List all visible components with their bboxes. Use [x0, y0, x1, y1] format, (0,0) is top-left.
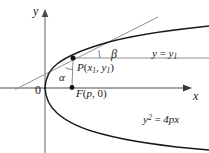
point-p-comma: , — [96, 61, 102, 73]
equals-sign: = — [160, 47, 166, 59]
y-axis — [42, 9, 49, 153]
angle-beta-arc — [99, 50, 100, 58]
equals-sign-2: = — [154, 113, 160, 125]
angle-alpha-label: α — [59, 72, 65, 83]
focus-f-name: F — [76, 87, 83, 99]
parabola-lower-branch — [45, 88, 209, 150]
parabola-diagram: y x 0 P(x1, y1) F(p, 0) α β y = y1 y2 = … — [0, 0, 209, 153]
point-p-name: P — [77, 61, 84, 73]
focus-f-args-rest: , 0) — [92, 87, 107, 99]
y-axis-label: y — [33, 5, 38, 17]
point-f-marker — [70, 85, 75, 90]
point-p-close-paren: ) — [110, 61, 114, 73]
point-p-marker — [71, 56, 76, 61]
point-p-y: y1 — [102, 61, 111, 73]
angle-alpha-arc — [66, 68, 73, 70]
point-p-x: x1 — [87, 61, 96, 73]
x-axis-label: x — [193, 90, 198, 102]
angle-beta-label: β — [111, 48, 117, 60]
parabola-upper-branch — [45, 26, 209, 88]
focal-chord-line — [72, 59, 73, 88]
focus-f-label: F(p, 0) — [76, 88, 107, 99]
parabola-equation-label: y2 = 4px — [143, 114, 179, 125]
origin-label: 0 — [35, 84, 41, 96]
diagram-canvas — [0, 0, 209, 153]
tangent-line — [15, 17, 158, 90]
horizontal-line-label: y = y1 — [152, 48, 177, 60]
point-p-label: P(x1, y1) — [77, 62, 114, 74]
x-axis-arrow-icon — [183, 84, 192, 91]
y-axis-arrow-icon — [42, 9, 49, 17]
